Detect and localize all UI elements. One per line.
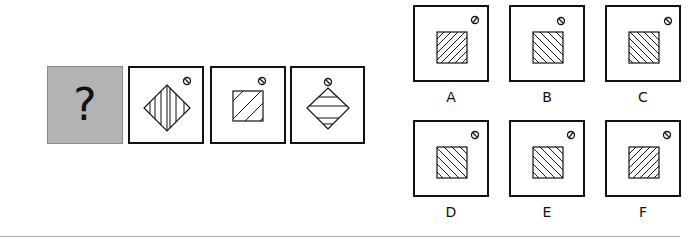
circle-backslash-icon — [184, 78, 191, 85]
diamond-vertical-hatch-icon — [130, 68, 202, 142]
circle-slash-icon — [472, 17, 479, 24]
question-placeholder: ? — [47, 66, 123, 144]
option-b-figure[interactable] — [509, 5, 585, 82]
circle-slash-icon — [568, 132, 575, 139]
option-f-figure[interactable] — [605, 120, 681, 197]
option-b-label[interactable]: B — [509, 89, 585, 105]
circle-backslash-icon — [558, 18, 565, 25]
option-c-label[interactable]: C — [605, 89, 681, 105]
circle-backslash-icon — [472, 132, 479, 139]
sequence-figure-3 — [290, 66, 365, 144]
square-back-hatch-icon — [511, 7, 583, 80]
sequence-figure-1 — [128, 66, 204, 144]
square-back-hatch-icon — [511, 122, 583, 195]
square-forward-hatch-icon — [415, 7, 487, 80]
option-e-label[interactable]: E — [509, 204, 585, 220]
square-back-hatch-icon — [415, 122, 487, 195]
diamond-horizontal-hatch-icon — [292, 68, 363, 142]
option-d-figure[interactable] — [413, 120, 489, 197]
option-a-figure[interactable] — [413, 5, 489, 82]
divider — [0, 236, 680, 237]
sequence-figure-2 — [210, 66, 286, 144]
circle-backslash-icon — [259, 78, 266, 85]
option-f-label[interactable]: F — [605, 204, 681, 220]
option-e-figure[interactable] — [509, 120, 585, 197]
square-forward-hatch-icon — [212, 68, 284, 142]
circle-backslash-icon — [325, 79, 332, 86]
square-forward-hatch-icon — [607, 122, 679, 195]
option-a-label[interactable]: A — [413, 89, 489, 105]
question-mark: ? — [73, 83, 96, 127]
option-c-figure[interactable] — [605, 5, 681, 82]
circle-backslash-icon — [664, 132, 671, 139]
square-back-hatch-icon — [607, 7, 679, 80]
option-d-label[interactable]: D — [413, 204, 489, 220]
circle-backslash-icon — [665, 18, 672, 25]
